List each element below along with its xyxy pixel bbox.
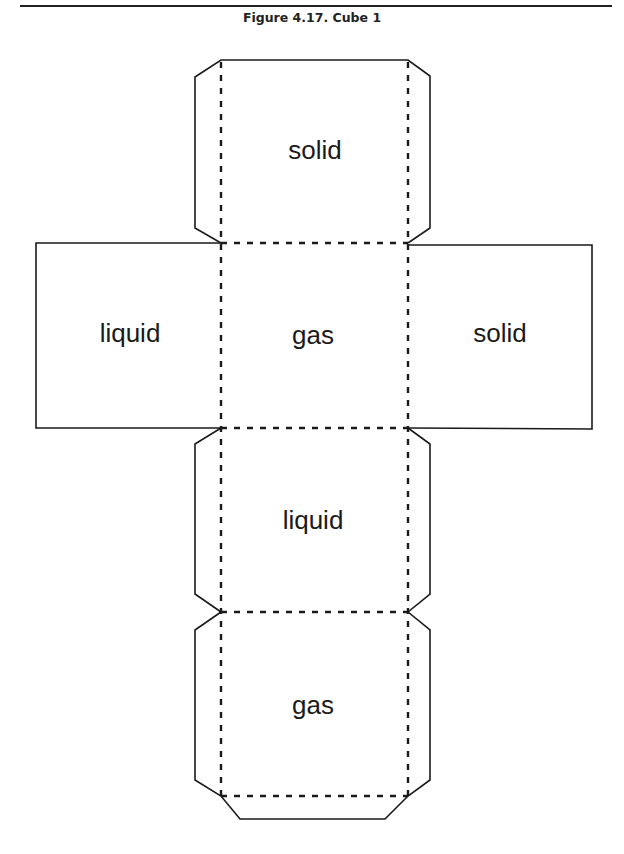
face-label-right: solid — [405, 318, 595, 349]
face-label-top: solid — [220, 135, 410, 166]
face-label-bottom: gas — [218, 690, 408, 721]
cube-net-diagram — [0, 0, 624, 854]
face-label-left: liquid — [35, 318, 225, 349]
face-label-lower: liquid — [218, 505, 408, 536]
face-label-center: gas — [218, 320, 408, 351]
